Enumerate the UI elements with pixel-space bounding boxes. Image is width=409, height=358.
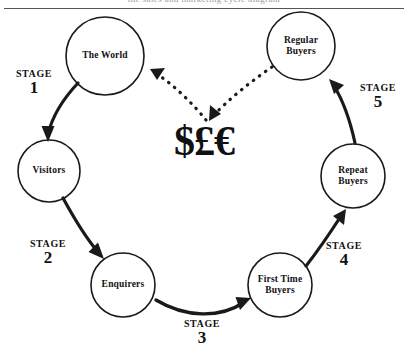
stage-label-1: STAGE 1 [8, 68, 60, 97]
arrowhead-stage-5 [329, 79, 344, 94]
dotted-arrow-regular-buyers-to-center [214, 67, 272, 115]
stage-label-5: STAGE 5 [352, 82, 404, 111]
stage-4-number: 4 [318, 251, 370, 269]
diagram-canvas: the sales and marketing cycle diagram [0, 0, 409, 358]
node-circle-first-time-buyers[interactable] [248, 253, 312, 317]
node-circle-enquirers[interactable] [91, 253, 155, 317]
arrow-stage-3 [156, 300, 243, 314]
arrowhead-stage-3 [236, 297, 252, 310]
stage-5-number: 5 [352, 93, 404, 111]
currency-symbols: $£€ [139, 118, 269, 164]
node-circle-regular-buyers[interactable] [267, 12, 335, 80]
stage-1-number: 1 [8, 79, 60, 97]
stage-label-3: STAGE 3 [176, 318, 228, 347]
stage-label-4: STAGE 4 [318, 240, 370, 269]
stage-2-number: 2 [22, 249, 74, 267]
node-circle-repeat-buyers[interactable] [321, 144, 385, 208]
stage-3-number: 3 [176, 329, 228, 347]
dotted-arrow-center-to-the-world [157, 74, 206, 120]
node-circle-visitors[interactable] [18, 140, 80, 202]
stage-label-2: STAGE 2 [22, 238, 74, 267]
cycle-diagram-graphic [0, 0, 409, 358]
